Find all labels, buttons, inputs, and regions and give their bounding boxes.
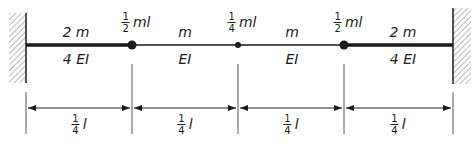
- segment-1-mass-label: 2 m: [63, 25, 90, 39]
- left-fixed-support: [9, 13, 26, 83]
- dimension-1-label: 14l: [71, 114, 86, 136]
- point-mass-3-label: 12ml: [334, 12, 363, 34]
- segment-3-mass-label: m: [285, 25, 299, 39]
- segment-2-mass-label: m: [178, 25, 192, 39]
- right-fixed-support: [453, 8, 471, 84]
- dimension-2-label: 14l: [177, 114, 192, 136]
- point-mass-3: [340, 41, 349, 50]
- segment-3-stiffness-label: EI: [286, 52, 299, 66]
- segment-4-stiffness-label: 4 EI: [390, 52, 416, 66]
- dimension-extension-lines: [26, 64, 453, 134]
- point-mass-1: [128, 41, 137, 50]
- dimension-4-label: 14l: [390, 114, 405, 136]
- point-mass-1-label: 12ml: [122, 12, 151, 34]
- point-mass-2: [235, 42, 241, 48]
- dimension-3-label: 14l: [283, 114, 298, 136]
- segment-1-stiffness-label: 4 EI: [63, 52, 89, 66]
- segment-4-mass-label: 2 m: [390, 25, 417, 39]
- point-mass-2-label: 14ml: [228, 12, 257, 34]
- segment-2-stiffness-label: EI: [179, 52, 192, 66]
